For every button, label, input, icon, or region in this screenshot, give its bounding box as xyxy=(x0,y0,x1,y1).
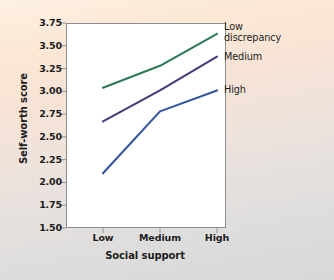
series-line-high xyxy=(103,90,217,173)
y-tick-label: 1.75 xyxy=(28,200,62,210)
figure-container: 1.501.752.002.252.502.753.003.253.503.75… xyxy=(0,0,334,280)
series-label-medium: Medium xyxy=(224,51,262,62)
series-lines xyxy=(103,34,217,173)
y-tick-label: 2.25 xyxy=(28,155,62,165)
tick-marks xyxy=(61,23,217,233)
series-label-high: High xyxy=(224,84,246,95)
y-tick-label: 2.50 xyxy=(28,132,62,142)
x-tick-label: High xyxy=(205,232,229,243)
series-line-low-discrepancy xyxy=(103,34,217,88)
y-tick-label: 2.00 xyxy=(28,177,62,187)
y-tick-label: 2.75 xyxy=(28,109,62,119)
y-tick-label: 3.25 xyxy=(28,64,62,74)
y-axis-title: Self-worth score xyxy=(18,44,29,194)
y-tick-label: 3.75 xyxy=(28,18,62,28)
x-tick-label: Low xyxy=(92,232,113,243)
x-tick-label: Medium xyxy=(139,232,181,243)
x-axis-title: Social support xyxy=(0,250,290,261)
x-axis-tick-labels: LowMediumHigh xyxy=(0,232,334,248)
y-tick-label: 3.00 xyxy=(28,86,62,96)
series-label-low-discrepancy: Low discrepancy xyxy=(224,21,281,43)
y-tick-label: 3.50 xyxy=(28,41,62,51)
